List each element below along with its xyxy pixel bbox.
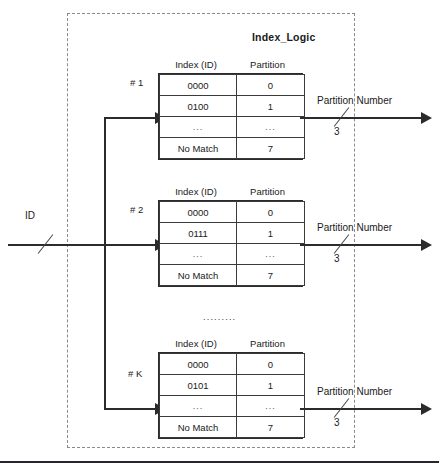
branch-wire-2 [104,244,157,246]
table-tag-k: # K [128,368,142,379]
diagram-canvas: Index_Logic ID # 1 Index (ID) Partition … [0,0,439,470]
output-arrow-2-icon [421,239,432,251]
table-2-header-row: Index (ID) Partition [158,184,301,200]
table-2-r2-partition: ... [237,244,305,265]
table-k-r0-partition: 0 [237,354,305,375]
output-label-2: Partition Number [317,222,392,233]
table-2-r0-index: 0000 [160,202,237,223]
table-row: No Match 7 [160,417,305,438]
output-width-k: 3 [334,417,340,428]
table-k-r0-index: 0000 [160,354,237,375]
input-label-id: ID [25,210,35,221]
table-1-r2-index: ... [160,117,237,138]
table-2-r1-index: 0111 [160,223,237,244]
table-1-r0-index: 0000 [160,75,237,96]
table-2-body: 0000 0 0111 1 ... ... No Match 7 [158,200,303,287]
table-1-r1-index: 0100 [160,96,237,117]
table-k-r3-partition: 7 [237,417,305,438]
lookup-table-2: Index (ID) Partition 0000 0 0111 1 ... .… [158,184,301,287]
output-label-1: Partition Number [317,95,392,106]
output-width-1: 3 [334,126,340,137]
table-row: No Match 7 [160,265,305,286]
table-row: 0100 1 [160,96,305,117]
table-k-header-index: Index (ID) [158,336,234,352]
table-2-r3-index: No Match [160,265,237,286]
table-row: No Match 7 [160,138,305,159]
module-title: Index_Logic [252,31,315,43]
table-row: 0111 1 [160,223,305,244]
table-1-header-index: Index (ID) [158,57,234,73]
table-row: 0000 0 [160,75,305,96]
output-width-2: 3 [334,253,340,264]
series-continuation-ellipsis: ......... [203,312,236,322]
table-2-r0-partition: 0 [237,202,305,223]
table-row: 0101 1 [160,375,305,396]
table-2-r3-partition: 7 [237,265,305,286]
output-arrow-1-icon [421,112,432,124]
table-k-r1-partition: 1 [237,375,305,396]
table-k-header-row: Index (ID) Partition [158,336,301,352]
table-tag-1: # 1 [130,77,143,88]
output-wire-1 [300,117,428,119]
output-arrow-k-icon [421,403,432,415]
table-k-r3-index: No Match [160,417,237,438]
table-k-header-partition: Partition [234,336,301,352]
lookup-table-1: Index (ID) Partition 0000 0 0100 1 ... .… [158,57,301,160]
table-2-header-index: Index (ID) [158,184,234,200]
page-bottom-rule [0,461,439,463]
branch-wire-3 [104,408,157,410]
table-1-r0-partition: 0 [237,75,305,96]
output-label-k: Partition Number [317,386,392,397]
table-2-header-partition: Partition [234,184,301,200]
table-1-header-partition: Partition [234,57,301,73]
table-1-r3-index: No Match [160,138,237,159]
output-wire-2 [300,244,428,246]
lookup-table-k: Index (ID) Partition 0000 0 0101 1 ... .… [158,336,301,439]
table-2-r2-index: ... [160,244,237,265]
table-tag-2: # 2 [130,204,143,215]
table-1-r2-partition: ... [237,117,305,138]
table-1-body: 0000 0 0100 1 ... ... No Match 7 [158,73,303,160]
table-row: ... ... [160,244,305,265]
table-k-r1-index: 0101 [160,375,237,396]
table-k-r2-partition: ... [237,396,305,417]
branch-wire-1 [104,117,157,119]
table-row: ... ... [160,117,305,138]
table-k-body: 0000 0 0101 1 ... ... No Match 7 [158,352,303,439]
table-2-r1-partition: 1 [237,223,305,244]
table-row: 0000 0 [160,354,305,375]
table-k-r2-index: ... [160,396,237,417]
table-row: 0000 0 [160,202,305,223]
output-wire-k [300,408,428,410]
fanout-spine-wire [104,118,106,410]
table-row: ... ... [160,396,305,417]
table-1-header-row: Index (ID) Partition [158,57,301,73]
table-1-r3-partition: 7 [237,138,305,159]
table-1-r1-partition: 1 [237,96,305,117]
